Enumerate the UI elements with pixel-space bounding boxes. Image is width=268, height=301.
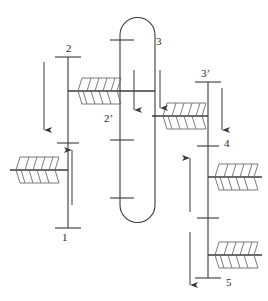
label-1: 1 xyxy=(62,232,68,243)
exchanger-1-lower-hatch xyxy=(21,170,49,183)
flow-arrows-group xyxy=(44,62,222,285)
label-3-prime: 3’ xyxy=(201,68,210,79)
exchanger-4 xyxy=(215,164,258,190)
branch-4 xyxy=(208,164,262,190)
exchanger-2prime-upper-hatch xyxy=(87,78,115,91)
label-3: 3 xyxy=(156,36,162,47)
branch-2prime xyxy=(68,78,155,104)
exchanger-5-upper-hatch xyxy=(224,242,252,255)
exchanger-2prime-lower-hatch xyxy=(83,91,111,104)
diagram-canvas: 1 2 2’ 3 3’ 4 5 xyxy=(0,0,268,301)
label-2-prime: 2’ xyxy=(104,113,113,124)
label-2: 2 xyxy=(66,43,72,54)
label-4: 4 xyxy=(224,138,230,149)
process-schematic-svg xyxy=(0,0,268,301)
exchanger-5-lower-hatch xyxy=(220,255,248,268)
trunk-left xyxy=(55,57,81,228)
exchanger-3prime xyxy=(163,103,206,129)
trunk-lines-group xyxy=(55,18,221,278)
branch-1 xyxy=(10,157,68,183)
exchanger-1-upper-hatch xyxy=(25,157,53,170)
exchanger-4-upper-hatch xyxy=(224,164,252,177)
branch-5 xyxy=(208,242,262,268)
label-5: 5 xyxy=(226,277,232,288)
exchanger-5 xyxy=(215,242,258,268)
vessel-outline xyxy=(120,18,155,223)
vessel-center xyxy=(110,18,155,223)
exchanger-2prime xyxy=(78,78,121,104)
exchanger-3prime-lower-hatch xyxy=(168,116,196,129)
exchanger-3prime-upper-hatch xyxy=(172,103,200,116)
exchanger-4-lower-hatch xyxy=(220,177,248,190)
exchanger-1 xyxy=(16,157,59,183)
